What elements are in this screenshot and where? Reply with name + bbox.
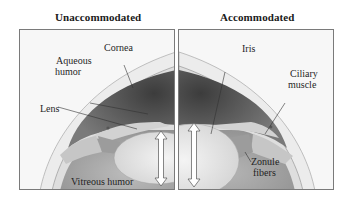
label-ciliary-muscle-2: muscle [288,79,316,90]
panel-title-unaccommodated: Unaccommodated [55,11,141,23]
panel-title-accommodated: Accommodated [220,11,295,23]
unaccommodated-eye-panel: Cornea Aqueous humor Lens Vitreous humor [19,29,175,190]
label-ciliary-muscle-1: Ciliary [290,68,318,79]
label-aqueous-humor-1: Aqueous [56,55,92,66]
label-aqueous-humor-2: humor [55,66,81,77]
label-vitreous-humor: Vitreous humor [71,176,133,187]
label-cornea: Cornea [104,42,133,53]
label-zonule-fibers-2: fibers [253,167,276,178]
label-iris: Iris [242,43,255,54]
accommodated-eye-panel: Iris Ciliary muscle Zonule fibers [178,29,334,190]
label-zonule-fibers-1: Zonule [251,156,279,167]
label-lens: Lens [40,103,59,114]
